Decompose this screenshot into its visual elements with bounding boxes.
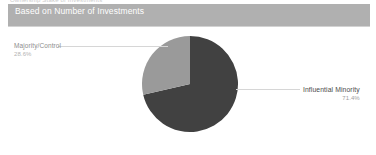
header-divider — [8, 26, 370, 27]
callout-majority-control: Majority/Control 28.6% — [14, 42, 61, 58]
callout-majority-control-label: Majority/Control — [14, 42, 61, 50]
pie-chart-svg — [141, 35, 239, 133]
section-header-title: Based on Number of Investments — [15, 6, 144, 17]
callout-influential-minority-value: 71.4% — [303, 94, 360, 102]
leader-line-majority-control — [58, 46, 168, 47]
callout-influential-minority-label: Influential Minority — [303, 86, 360, 94]
callout-influential-minority: Influential Minority 71.4% — [303, 86, 360, 102]
section-header-bar: Based on Number of Investments — [8, 4, 370, 26]
pie-chart — [141, 35, 239, 133]
leader-line-influential-minority — [236, 89, 300, 90]
clipped-title-text: Ownership Stake of Investments — [10, 0, 210, 3]
callout-majority-control-value: 28.6% — [14, 50, 61, 58]
